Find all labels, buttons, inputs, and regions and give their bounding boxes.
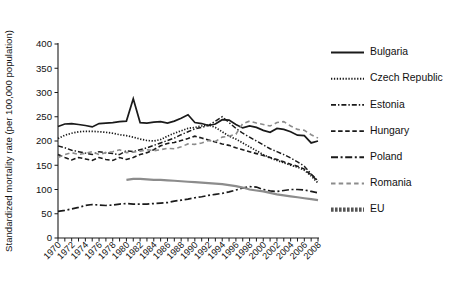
series-line-bulgaria: [58, 99, 318, 143]
y-tick-label-350: 350: [36, 63, 52, 74]
series-line-estonia: [58, 117, 318, 181]
y-tick-label-200: 200: [36, 135, 52, 146]
y-tick-label-300: 300: [36, 87, 52, 98]
legend-label-poland: Poland: [370, 151, 403, 162]
y-axis: 050100150200250300350400: [36, 38, 58, 243]
series-line-eu: [126, 179, 318, 200]
series-lines: [58, 99, 318, 212]
y-axis-title: Standardized mortality rate (per 100,000…: [3, 30, 14, 252]
y-tick-label-50: 50: [41, 208, 52, 219]
legend-label-eu: EU: [370, 203, 384, 214]
y-tick-label-100: 100: [36, 184, 52, 195]
legend-item-bulgaria: Bulgaria: [331, 46, 408, 57]
y-tick-label-150: 150: [36, 160, 52, 171]
legend-label-estonia: Estonia: [370, 99, 405, 110]
legend-label-romania: Romania: [370, 177, 412, 188]
series-line-poland: [58, 187, 318, 212]
y-tick-label-0: 0: [47, 232, 52, 243]
legend-item-romania: Romania: [331, 177, 412, 188]
y-tick-label-400: 400: [36, 38, 52, 49]
series-line-hungary: [58, 136, 318, 181]
legend-item-estonia: Estonia: [331, 99, 405, 110]
line-chart: Standardized mortality rate (per 100,000…: [0, 0, 467, 283]
legend-label-hungary: Hungary: [370, 125, 410, 136]
y-tick-label-250: 250: [36, 111, 52, 122]
x-axis: 1970197219741976197819801982198419861988…: [41, 238, 323, 261]
legend-item-poland: Poland: [331, 151, 403, 162]
legend-item-eu: EU: [331, 203, 384, 214]
y-axis-title-label: Standardized mortality rate (per 100,000…: [3, 30, 14, 252]
chart-figure: Standardized mortality rate (per 100,000…: [0, 0, 467, 283]
legend-item-czech-republic: Czech Republic: [331, 72, 443, 83]
legend-label-bulgaria: Bulgaria: [370, 46, 408, 57]
chart-legend: BulgariaCzech RepublicEstoniaHungaryPola…: [331, 46, 443, 214]
legend-item-hungary: Hungary: [331, 125, 410, 136]
legend-label-czech-republic: Czech Republic: [370, 72, 443, 83]
